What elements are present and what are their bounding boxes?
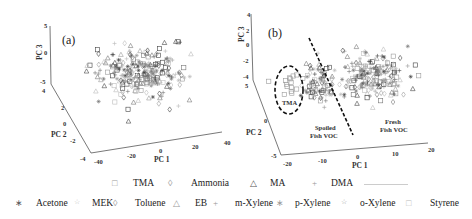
- data-point: [178, 82, 182, 87]
- data-point: [381, 64, 385, 68]
- data-point: [351, 64, 355, 68]
- legend-item-o-xylene: o-Xylene: [360, 198, 395, 208]
- data-point: [85, 63, 90, 67]
- data-point: [365, 71, 369, 75]
- panel-a-x-tick: 0: [159, 147, 162, 154]
- panel-b-x-tick: 10: [392, 150, 399, 157]
- panel-b-z-tick: -4: [243, 73, 249, 80]
- data-point: [138, 48, 143, 52]
- legend-row-1: □ TMA ◊ Ammonia △ MA + DMA: [0, 178, 472, 192]
- data-point: [114, 88, 119, 92]
- panel-b-z-label: PC 3: [237, 26, 246, 42]
- panel-b-y-tick: 5: [245, 82, 249, 89]
- data-point: [128, 43, 133, 47]
- data-point: [163, 49, 167, 53]
- panel-a-x-tick: -40: [94, 158, 103, 165]
- panel-b-z-tick: 0: [246, 41, 249, 48]
- data-point: [413, 63, 417, 67]
- panel-b-x-tick: 0: [356, 153, 359, 160]
- data-point: [106, 56, 111, 60]
- data-point: [355, 66, 359, 70]
- data-point: [394, 67, 398, 71]
- star-icon: ☆: [74, 198, 80, 206]
- data-point: [95, 48, 99, 52]
- data-point: [126, 107, 130, 111]
- data-point: [130, 84, 134, 89]
- panel-a-points: [84, 39, 193, 123]
- legend-item-ammonia: Ammonia: [191, 178, 229, 188]
- asterisk-icon: ∗: [276, 198, 284, 208]
- panel-b-x-label: PC 1: [352, 161, 368, 170]
- panel-b-x-tick: -20: [283, 160, 292, 167]
- panel-b: 4 2 0 -2 -4 PC 3 5 0 PC 2 -5 -20 -10 0 P…: [237, 11, 435, 170]
- panel-a-y-tick: -2: [70, 137, 75, 144]
- data-point: [94, 89, 99, 93]
- data-point: [166, 81, 170, 85]
- legend-item-tma: TMA: [133, 178, 154, 188]
- data-point: [131, 62, 135, 66]
- data-point: [385, 63, 389, 67]
- square-icon: □: [112, 178, 117, 188]
- data-point: [135, 53, 139, 57]
- data-point: [168, 107, 172, 112]
- legend-line: [364, 184, 408, 185]
- data-point: [339, 92, 343, 96]
- data-point: [322, 105, 326, 109]
- data-point: [351, 68, 355, 72]
- data-point: [267, 79, 271, 83]
- data-point: [136, 98, 141, 102]
- data-point: [305, 75, 309, 79]
- data-point: [305, 91, 309, 95]
- data-point: [325, 66, 329, 70]
- square-icon: □: [406, 198, 411, 208]
- data-point: [161, 91, 165, 95]
- panel-a-z-label: PC 3: [35, 44, 44, 60]
- data-point: [402, 92, 406, 97]
- data-point: [375, 92, 379, 97]
- diamond-icon: ◊: [113, 198, 117, 208]
- data-point: [106, 70, 110, 74]
- panel-b-z-tick: -2: [243, 57, 248, 64]
- data-point: [368, 94, 372, 98]
- data-point: [119, 84, 123, 88]
- data-point: [327, 65, 331, 69]
- data-point: [156, 76, 160, 80]
- data-point: [350, 61, 354, 65]
- data-point: [131, 100, 136, 104]
- data-point: [119, 52, 124, 56]
- plus-icon: +: [312, 178, 317, 188]
- spoiled-fish-voc-line2: Fish VOC: [310, 132, 338, 139]
- panel-b-z-tick: 4: [247, 11, 251, 18]
- tma-annotation: TMA: [282, 99, 297, 106]
- legend-item-m-xylene: m-Xylene: [235, 198, 273, 208]
- data-point: [324, 99, 328, 103]
- data-point: [95, 75, 100, 79]
- panel-a: 5 0 -5 PC 3 4 2 0 PC 2 -2 -4 -40 -20 0 P…: [35, 22, 231, 165]
- legend-row-2: ∗ Acetone ☆ MEK ◊ Toluene △ EB + m-Xylen…: [0, 198, 472, 212]
- panel-a-z-tick: 5: [44, 22, 48, 29]
- data-point: [182, 66, 186, 70]
- data-point: [374, 56, 379, 60]
- data-point: [137, 68, 141, 72]
- data-point: [345, 64, 350, 68]
- data-point: [340, 77, 344, 81]
- data-point: [391, 99, 395, 104]
- data-point: [122, 95, 126, 100]
- legend-item-eb: EB: [195, 198, 207, 208]
- data-point: [396, 84, 400, 88]
- data-point: [410, 86, 415, 90]
- data-point: [397, 69, 401, 73]
- data-point: [392, 92, 396, 96]
- fresh-fish-voc-line1: Fresh: [385, 118, 401, 125]
- panel-a-y-tick: 2: [61, 104, 64, 111]
- data-point: [383, 91, 387, 96]
- data-point: [363, 88, 367, 92]
- data-point: [313, 72, 317, 76]
- data-point: [139, 88, 143, 92]
- data-point: [113, 41, 117, 45]
- data-point: [417, 74, 421, 78]
- data-point: [282, 92, 286, 96]
- data-point: [115, 77, 119, 81]
- data-point: [308, 70, 312, 75]
- data-point: [295, 87, 299, 91]
